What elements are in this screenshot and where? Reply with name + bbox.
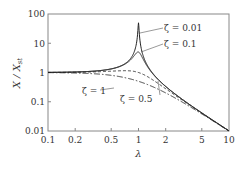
x-tick-label: 1	[136, 135, 142, 145]
x-axis-label: λ	[134, 148, 141, 159]
y-tick-label: 1	[39, 68, 45, 78]
x-tick-labels: 0.1 0.2 0.5 1 2 5 10	[41, 135, 235, 145]
annotation-zeta-1: ζ = 1	[82, 86, 106, 96]
x-tick-label: 0.5	[104, 135, 119, 145]
annotation-leaders	[100, 28, 163, 95]
x-tick-label: 2	[163, 135, 169, 145]
x-tick-label: 0.1	[41, 135, 55, 145]
x-tick-label: 5	[199, 135, 205, 145]
frequency-response-chart: 100 10 1 0.1 0.01 0.1 0.2 0.5 1 2 5 10 λ…	[0, 0, 241, 170]
curve-zeta-0.01	[48, 23, 229, 131]
annotation-zeta-0.01: ζ = 0.01	[164, 23, 202, 33]
x-tick-label: 10	[223, 135, 235, 145]
y-axis-label-sub: st	[16, 58, 24, 65]
y-axis-label: X / Xst	[11, 58, 24, 90]
y-tick-label: 10	[34, 39, 46, 49]
y-axis-label-main: X / X	[11, 63, 22, 89]
y-tick-labels: 100 10 1 0.1 0.01	[25, 9, 45, 136]
y-tick-label: 0.1	[31, 97, 45, 107]
x-tick-label: 0.2	[68, 135, 82, 145]
svg-text:X / Xst: X / Xst	[11, 58, 24, 90]
curve-zeta-0.1	[48, 52, 229, 131]
annotation-zeta-0.1: ζ = 0.1	[164, 39, 196, 49]
annotation-zeta-0.5: ζ = 0.5	[120, 94, 153, 104]
curves	[48, 23, 229, 131]
y-tick-label: 100	[28, 9, 45, 19]
